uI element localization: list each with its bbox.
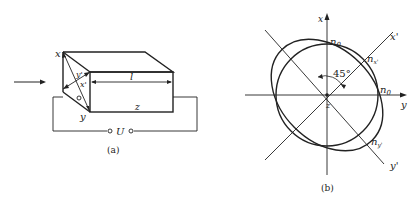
label-y-prime: y'	[75, 70, 83, 79]
label-voltage: U	[116, 126, 125, 137]
caption-a: (a)	[107, 145, 119, 155]
figure-b-labels: x y x' y' z 45° n0 n0 nx' ny' (b)	[318, 14, 407, 193]
label-angle: 45°	[333, 68, 351, 79]
caption-b: (b)	[321, 183, 334, 193]
label-x-prime-axis: x'	[390, 31, 398, 42]
label-z: z	[134, 102, 140, 112]
y-prime-axis	[265, 30, 384, 164]
label-x-axis: x	[318, 14, 323, 24]
label-length: l	[130, 71, 133, 82]
label-y-prime-axis: y'	[389, 160, 398, 171]
figure-a-labels: x y y' x' l z U (a)	[55, 48, 140, 155]
origin-marker	[77, 96, 81, 100]
label-ny-prime: ny'	[371, 136, 383, 149]
label-x: x	[55, 48, 61, 59]
incident-light-arrow	[14, 80, 46, 85]
figure-a	[14, 52, 197, 133]
label-y: y	[79, 111, 86, 122]
label-x-prime: x'	[80, 80, 87, 89]
label-y-axis: y	[400, 99, 407, 110]
origin-point	[325, 93, 329, 97]
electro-optic-diagram: x y y' x' l z U (a) x y x' y' z	[0, 0, 419, 200]
label-nx-prime: nx'	[367, 53, 379, 65]
label-z-axis: z	[325, 101, 331, 110]
label-n0-top: n0	[330, 36, 341, 49]
voltage-circuit	[53, 97, 197, 133]
